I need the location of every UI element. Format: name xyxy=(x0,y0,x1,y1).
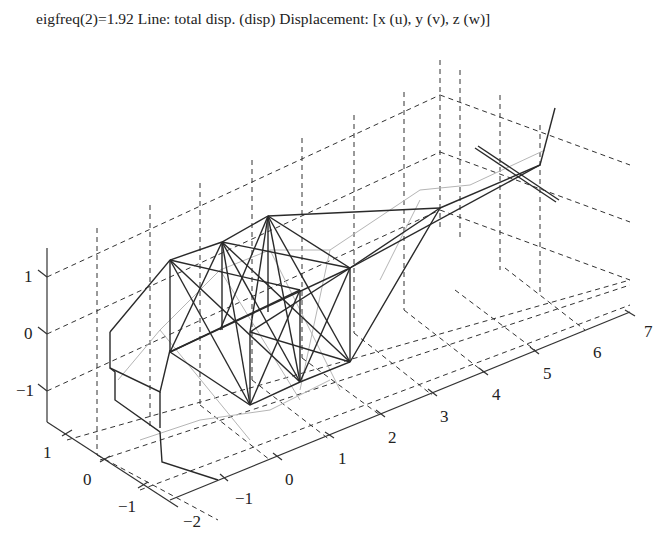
plot-canvas: 1 0 −1 1 0 −1 −2 −1 0 1 2 3 4 5 6 7 xyxy=(0,0,671,560)
svg-text:−1: −1 xyxy=(118,497,136,516)
svg-text:1: 1 xyxy=(24,267,33,286)
svg-text:−1: −1 xyxy=(235,489,253,508)
undeformed-structure xyxy=(118,150,545,440)
svg-text:1: 1 xyxy=(338,449,347,468)
deformed-structure xyxy=(110,108,559,480)
svg-text:7: 7 xyxy=(644,322,653,341)
y-axis xyxy=(47,422,178,507)
svg-text:0: 0 xyxy=(24,324,33,343)
tick-labels: 1 0 −1 1 0 −1 −2 −1 0 1 2 3 4 5 6 7 xyxy=(16,267,653,531)
svg-text:4: 4 xyxy=(492,385,501,404)
svg-text:6: 6 xyxy=(593,343,602,362)
svg-text:−1: −1 xyxy=(16,381,34,400)
svg-text:0: 0 xyxy=(285,470,294,489)
svg-text:3: 3 xyxy=(440,407,449,426)
svg-text:0: 0 xyxy=(83,470,92,489)
svg-text:1: 1 xyxy=(43,443,52,462)
svg-text:5: 5 xyxy=(543,364,552,383)
svg-text:2: 2 xyxy=(388,428,397,447)
svg-text:−2: −2 xyxy=(183,512,201,531)
